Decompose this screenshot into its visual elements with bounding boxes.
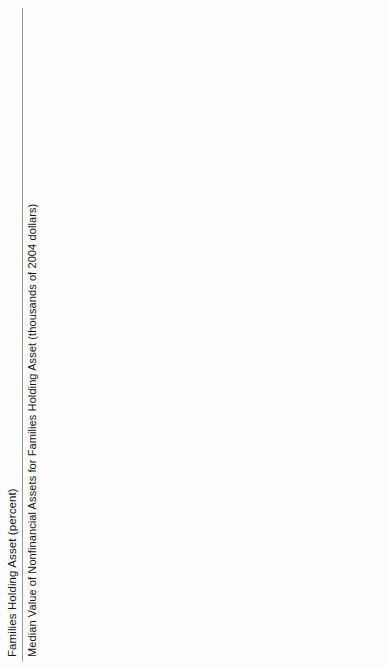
scanned-page-rotated: Families Holding Asset (percent) Median …: [0, 0, 387, 669]
horizontal-rule: [22, 8, 23, 661]
figure-families-holding-asset: Families Holding Asset (percent): [6, 8, 20, 661]
page-content: Families Holding Asset (percent) Median …: [0, 0, 387, 669]
figure-1-title: Families Holding Asset (percent): [6, 8, 19, 661]
figure-2-title: Median Value of Nonfinancial Assets for …: [26, 8, 39, 661]
figure-median-value-nonfinancial-assets: Median Value of Nonfinancial Assets for …: [26, 8, 45, 661]
